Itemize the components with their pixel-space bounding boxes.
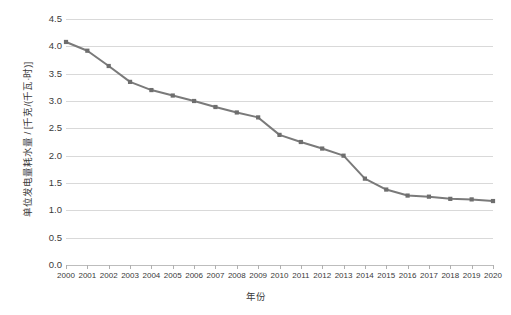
data-point-marker [406, 193, 410, 197]
data-point-marker [64, 40, 68, 44]
x-axis-tick-mark [301, 265, 302, 269]
y-axis-tick-label: 1.5 [36, 178, 62, 188]
x-axis-tick-mark [215, 265, 216, 269]
line-chart: 单位发电量耗水量 / [千克/(千瓦·时)] 0.00.51.01.52.02.… [0, 0, 511, 315]
data-point-marker [427, 195, 431, 199]
x-axis-tick-marks [66, 265, 493, 270]
data-point-marker [85, 49, 89, 53]
plot-area [66, 19, 493, 265]
data-point-marker [256, 115, 260, 119]
x-axis-tick-mark [258, 265, 259, 269]
data-point-marker [491, 199, 495, 203]
x-axis-tick-mark [280, 265, 281, 269]
x-axis-tick-labels: 2000200120022003200420052006200720082009… [66, 271, 493, 285]
x-axis-tick-mark [151, 265, 152, 269]
data-point-marker [149, 88, 153, 92]
data-point-marker [277, 133, 281, 137]
data-point-marker [341, 154, 345, 158]
x-axis-tick-mark [237, 265, 238, 269]
y-axis-title: 单位发电量耗水量 / [千克/(千瓦·时)] [16, 7, 38, 272]
x-axis-tick-mark [322, 265, 323, 269]
x-axis-tick-mark [408, 265, 409, 269]
data-point-marker [384, 187, 388, 191]
x-axis-tick-mark [109, 265, 110, 269]
data-point-marker [128, 80, 132, 84]
y-axis-tick-label: 4.0 [36, 42, 62, 52]
x-axis-tick-mark [194, 265, 195, 269]
series-line-group [66, 19, 493, 265]
y-axis-tick-label: 2.5 [36, 124, 62, 134]
x-axis-tick-label: 2020 [473, 271, 511, 281]
x-axis-tick-mark [66, 265, 67, 269]
data-point-marker [363, 177, 367, 181]
y-axis-tick-label: 3.0 [36, 96, 62, 106]
y-axis-tick-label: 0.5 [36, 233, 62, 243]
data-point-marker [171, 93, 175, 97]
y-axis-tick-label: 2.0 [36, 151, 62, 161]
x-axis-tick-mark [472, 265, 473, 269]
data-point-marker [107, 64, 111, 68]
x-axis-tick-mark [130, 265, 131, 269]
x-axis-tick-mark [173, 265, 174, 269]
y-axis-tick-label: 0.0 [36, 260, 62, 270]
data-point-marker [320, 146, 324, 150]
x-axis-tick-mark [429, 265, 430, 269]
x-axis-tick-mark [365, 265, 366, 269]
x-axis-tick-mark [344, 265, 345, 269]
y-axis-tick-label: 3.5 [36, 69, 62, 79]
data-point-marker [470, 197, 474, 201]
data-point-marker [299, 140, 303, 144]
x-axis-tick-mark [493, 265, 494, 269]
x-axis-tick-mark [386, 265, 387, 269]
y-axis-tick-labels: 0.00.51.01.52.02.53.03.54.04.5 [36, 19, 62, 265]
data-point-marker [448, 197, 452, 201]
series-line [66, 42, 493, 201]
x-axis-title: 年份 [0, 289, 511, 303]
data-point-marker [192, 99, 196, 103]
y-axis-tick-label: 1.0 [36, 206, 62, 216]
y-axis-tick-label: 4.5 [36, 14, 62, 24]
data-point-marker [213, 105, 217, 109]
x-axis-tick-mark [87, 265, 88, 269]
x-axis-tick-mark [450, 265, 451, 269]
data-point-marker [235, 110, 239, 114]
